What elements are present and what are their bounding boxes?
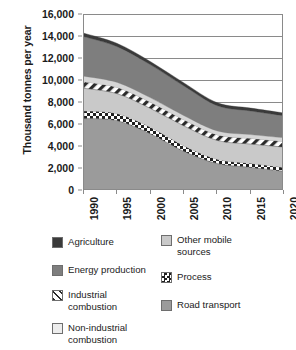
y-axis-tick-mark (78, 14, 82, 15)
legend-swatch-agriculture (52, 237, 63, 248)
x-axis-tick-labels: 1990199520002005201020152020 (83, 190, 285, 234)
legend-swatch-other-mobile-sources (161, 235, 172, 246)
legend-swatch-energy-production (52, 265, 63, 276)
y-axis-tick-labels: 02,0004,0006,0008,00010,00012,00014,0001… (24, 14, 78, 190)
y-axis-tick-mark (78, 58, 82, 59)
legend-label-non-industrial-combustion: Non-industrial combustion (68, 322, 127, 345)
legend-label-industrial-combustion: Industrial combustion (68, 289, 117, 312)
legend-item-industrial-combustion[interactable]: Industrial combustion (52, 289, 117, 312)
y-axis-tick-mark (78, 102, 82, 103)
x-axis-tick-mark (216, 190, 217, 194)
legend-item-process[interactable]: Process (161, 271, 212, 283)
y-axis-tick-label: 6,000 (48, 118, 74, 130)
legend-swatch-industrial-combustion (52, 290, 63, 301)
y-axis-tick-mark (78, 146, 82, 147)
legend-item-other-mobile-sources[interactable]: Other mobile sources (161, 234, 232, 257)
legend-item-non-industrial-combustion[interactable]: Non-industrial combustion (52, 322, 127, 345)
x-axis-tick-mark (83, 190, 84, 194)
x-axis-tick-label: 2000 (155, 197, 167, 220)
plot-area (83, 14, 283, 190)
y-axis-tick-mark (78, 80, 82, 81)
y-axis-tick-mark (78, 190, 82, 191)
y-axis-tick-mark (78, 124, 82, 125)
y-axis-tick-label: 0 (68, 184, 74, 196)
chart-page: Thousand tonnes per year 02,0004,0006,00… (0, 0, 296, 350)
y-axis-tick-mark (78, 36, 82, 37)
stacked-area-chart: Thousand tonnes per year 02,0004,0006,00… (0, 0, 296, 232)
y-axis-tick-mark (78, 168, 82, 169)
x-axis-tick-mark (250, 190, 251, 194)
area-bands (84, 33, 283, 190)
x-axis-tick-mark (283, 190, 284, 194)
legend-label-process: Process (177, 271, 212, 283)
legend-item-agriculture[interactable]: Agriculture (52, 236, 114, 248)
y-axis-tick-label: 12,000 (42, 52, 74, 64)
y-axis-tick-label: 4,000 (48, 140, 74, 152)
y-axis-tick-label: 16,000 (42, 8, 74, 20)
y-axis-tick-label: 14,000 (42, 30, 74, 42)
x-axis-tick-mark (116, 190, 117, 194)
x-axis-tick-label: 2010 (221, 197, 233, 220)
x-axis-tick-label: 2015 (255, 197, 267, 220)
x-axis-tick-label: 1995 (121, 197, 133, 220)
legend-swatch-non-industrial-combustion (52, 323, 63, 334)
plot-svg (84, 14, 283, 190)
y-axis-tick-label: 2,000 (48, 162, 74, 174)
x-axis-tick-label: 2005 (188, 197, 200, 220)
y-axis-tick-label: 8,000 (48, 96, 74, 108)
legend-item-road-transport[interactable]: Road transport (161, 299, 240, 311)
y-axis-tick-label: 10,000 (42, 74, 74, 86)
chart-legend: AgricultureEnergy productionIndustrial c… (0, 232, 296, 350)
legend-swatch-road-transport (161, 300, 172, 311)
x-axis-tick-mark (150, 190, 151, 194)
legend-label-energy-production: Energy production (68, 264, 146, 276)
legend-swatch-process (161, 272, 172, 283)
legend-label-other-mobile-sources: Other mobile sources (177, 234, 232, 257)
legend-item-energy-production[interactable]: Energy production (52, 264, 146, 276)
x-axis-tick-label: 1990 (88, 197, 100, 220)
legend-label-agriculture: Agriculture (68, 236, 114, 248)
legend-label-road-transport: Road transport (177, 299, 240, 311)
x-axis-tick-label: 2020 (288, 197, 296, 220)
x-axis-tick-mark (183, 190, 184, 194)
